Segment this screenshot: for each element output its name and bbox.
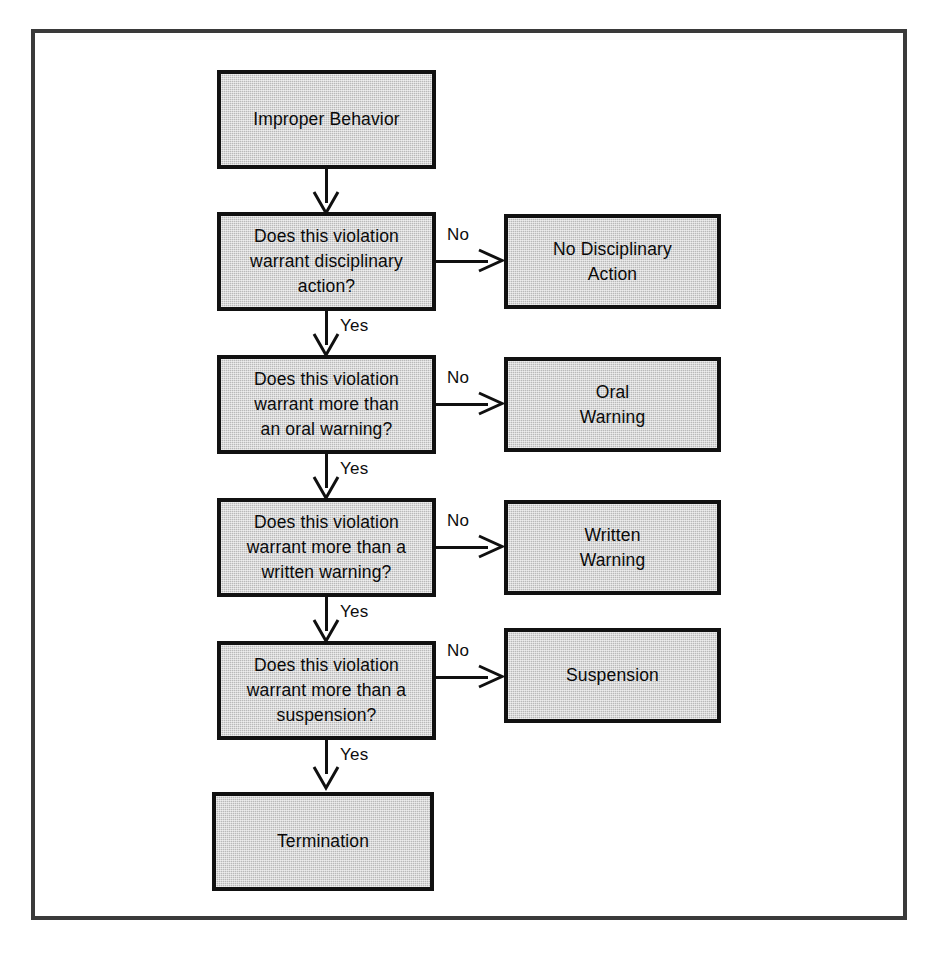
arrowhead-decision1-yes: [313, 333, 339, 357]
arrowhead-decision3-no: [478, 535, 504, 559]
node-decision-more-than-suspension-label: Does this violation warrant more than a …: [247, 653, 406, 728]
node-decision-disciplinary-action[interactable]: Does this violation warrant disciplinary…: [217, 212, 436, 311]
arrowhead-decision1-no: [478, 249, 504, 273]
arrowhead-decision2-no: [478, 392, 504, 416]
edge-label-no-3: No: [447, 511, 469, 531]
node-no-disciplinary-action[interactable]: No Disciplinary Action: [504, 214, 721, 309]
node-written-warning-label: Written Warning: [580, 523, 646, 573]
arrowhead-decision3-yes: [313, 619, 339, 643]
edge-label-no-4: No: [447, 641, 469, 661]
flowchart-canvas: Improper Behavior Does this violation wa…: [0, 0, 934, 954]
node-improper-behavior-label: Improper Behavior: [253, 107, 400, 132]
node-decision-more-than-oral-warning-label: Does this violation warrant more than an…: [254, 367, 399, 442]
node-termination[interactable]: Termination: [212, 792, 434, 891]
node-decision-more-than-written-warning-label: Does this violation warrant more than a …: [247, 510, 406, 585]
node-suspension[interactable]: Suspension: [504, 628, 721, 723]
edge-label-yes-1: Yes: [340, 316, 369, 336]
node-decision-more-than-oral-warning[interactable]: Does this violation warrant more than an…: [217, 355, 436, 454]
node-suspension-label: Suspension: [566, 663, 659, 688]
node-decision-more-than-written-warning[interactable]: Does this violation warrant more than a …: [217, 498, 436, 597]
edge-label-yes-2: Yes: [340, 459, 369, 479]
edge-label-yes-3: Yes: [340, 602, 369, 622]
node-termination-label: Termination: [277, 829, 369, 854]
node-no-disciplinary-action-label: No Disciplinary Action: [553, 237, 672, 287]
node-decision-disciplinary-action-label: Does this violation warrant disciplinary…: [250, 224, 403, 299]
arrowhead-start-to-decision1: [313, 191, 339, 215]
edge-label-no-2: No: [447, 368, 469, 388]
flowchart-page: Improper Behavior Does this violation wa…: [0, 0, 934, 954]
node-improper-behavior[interactable]: Improper Behavior: [217, 70, 436, 169]
node-written-warning[interactable]: Written Warning: [504, 500, 721, 595]
node-oral-warning-label: Oral Warning: [580, 380, 646, 430]
arrowhead-decision4-yes: [313, 766, 339, 790]
arrowhead-decision4-no: [478, 665, 504, 689]
node-decision-more-than-suspension[interactable]: Does this violation warrant more than a …: [217, 641, 436, 740]
edge-label-no-1: No: [447, 225, 469, 245]
arrowhead-decision2-yes: [313, 476, 339, 500]
node-oral-warning[interactable]: Oral Warning: [504, 357, 721, 452]
edge-label-yes-4: Yes: [340, 745, 369, 765]
